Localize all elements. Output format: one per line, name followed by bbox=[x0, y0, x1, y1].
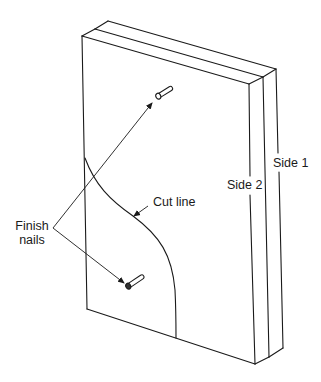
cut-line-label: Cut line bbox=[153, 195, 195, 209]
finish-nails-label-line1: Finish bbox=[12, 219, 52, 233]
cut-line-curve bbox=[85, 158, 176, 338]
side-1-label: Side 1 bbox=[273, 156, 308, 170]
finish-nail-bottom-icon bbox=[125, 273, 146, 290]
leader-finish-nail-bottom bbox=[53, 228, 124, 283]
side-2-label: Side 2 bbox=[227, 178, 262, 192]
panel-drawing bbox=[0, 0, 321, 382]
finish-nail-top-icon bbox=[155, 85, 174, 100]
leader-cut-line bbox=[134, 206, 148, 216]
finish-nails-label-line2: nails bbox=[12, 233, 52, 247]
diagram-canvas: Finish nails Cut line Side 2 Side 1 bbox=[0, 0, 321, 382]
leader-finish-nail-top bbox=[53, 103, 152, 228]
finish-nails-label: Finish nails bbox=[12, 219, 52, 247]
